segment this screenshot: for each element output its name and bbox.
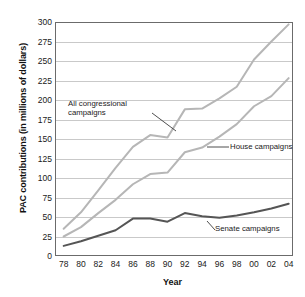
x-tick-label: 04: [277, 259, 301, 269]
y-tick-label: 25: [22, 232, 52, 242]
y-tick-label: 0: [22, 251, 52, 261]
y-tick-label: 200: [22, 95, 52, 105]
annotation-all-congressional: All congressional campaigns: [68, 100, 158, 118]
y-tick-label: 150: [22, 134, 52, 144]
y-tick-label: 250: [22, 56, 52, 66]
x-axis-ticks: 7880828486889092949698000204: [55, 259, 293, 273]
pac-contributions-chart: PAC contributions (in millions of dollar…: [0, 0, 305, 297]
plot-border: [55, 22, 293, 256]
y-tick-label: 50: [22, 212, 52, 222]
y-tick-label: 75: [22, 193, 52, 203]
y-tick-label: 275: [22, 37, 52, 47]
y-tick-label: 100: [22, 173, 52, 183]
y-tick-label: 225: [22, 76, 52, 86]
y-tick-label: 125: [22, 154, 52, 164]
plot-area: [55, 22, 293, 256]
x-axis-title-text: Year: [123, 277, 182, 287]
annotation-senate: Senate campaigns: [215, 225, 297, 234]
x-axis-title: Year: [0, 277, 305, 287]
annotation-house: House campaigns: [230, 143, 302, 152]
y-tick-label: 300: [22, 17, 52, 27]
y-axis-ticks: 0255075100125150175200225250275300: [20, 22, 52, 256]
y-tick-label: 175: [22, 115, 52, 125]
